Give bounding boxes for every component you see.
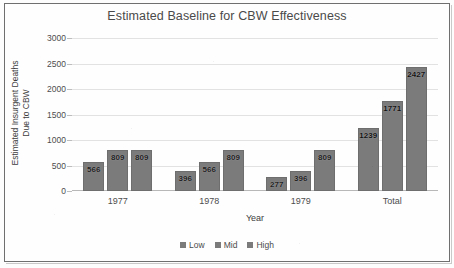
legend-swatch-icon — [215, 242, 221, 248]
y-axis-title: Estimated Insurgent Deaths Due to CBW — [7, 28, 33, 198]
bar-group: 396566809 — [164, 38, 256, 191]
legend-item-label: Low — [189, 240, 205, 250]
plot-area: 300025002000150010005000 566809809396566… — [72, 38, 438, 191]
bar-data-label: 396 — [179, 174, 192, 183]
bar-group-bars: 277396809 — [255, 38, 347, 191]
bar[interactable]: 2427 — [406, 67, 427, 191]
bar-data-label: 809 — [318, 153, 331, 162]
legend-item[interactable]: Mid — [215, 240, 238, 250]
x-axis-tick-label: 1978 — [164, 196, 256, 206]
bar-data-label: 277 — [270, 180, 283, 189]
x-axis-tick-label: Total — [347, 196, 439, 206]
x-axis-tick-label: 1979 — [255, 196, 347, 206]
bar[interactable]: 277 — [266, 177, 287, 191]
bar[interactable]: 566 — [83, 162, 104, 191]
legend-item-label: Mid — [224, 240, 238, 250]
y-axis-tick-label: 3000 — [36, 33, 66, 43]
bar-group-bars: 123917712427 — [347, 38, 439, 191]
y-axis-tick-label: 2000 — [36, 84, 66, 94]
bar-data-label: 2427 — [407, 70, 425, 79]
chart-title: Estimated Baseline for CBW Effectiveness — [0, 9, 454, 23]
y-axis-title-line1: Estimated Insurgent Deaths — [10, 61, 20, 166]
y-axis-tick-label: 0 — [36, 186, 66, 196]
x-axis-tick-label: 1977 — [72, 196, 164, 206]
gridline — [72, 191, 438, 192]
bar[interactable]: 396 — [290, 171, 311, 191]
y-axis-title-line2: Due to CBW — [20, 61, 31, 166]
y-axis-tick-mark — [67, 191, 72, 192]
bar-data-label: 566 — [203, 165, 216, 174]
bar-group: 566809809 — [72, 38, 164, 191]
bar[interactable]: 1771 — [382, 101, 403, 191]
y-axis-tick-label: 1500 — [36, 110, 66, 120]
bar-data-label: 809 — [227, 153, 240, 162]
legend-item-label: High — [256, 240, 273, 250]
y-axis-tick-label: 500 — [36, 161, 66, 171]
bar[interactable]: 566 — [199, 162, 220, 191]
bar-data-label: 1771 — [383, 104, 401, 113]
bar[interactable]: 809 — [314, 150, 335, 191]
legend-item[interactable]: High — [247, 240, 273, 250]
bar[interactable]: 809 — [131, 150, 152, 191]
bar-group: 277396809 — [255, 38, 347, 191]
chart-figure: Estimated Baseline for CBW Effectiveness… — [0, 0, 454, 268]
bar-groups: 566809809396566809277396809123917712427 — [72, 38, 438, 191]
legend-item[interactable]: Low — [180, 240, 205, 250]
legend-swatch-icon — [180, 242, 186, 248]
bar-group-bars: 566809809 — [72, 38, 164, 191]
bar-data-label: 1239 — [359, 131, 377, 140]
bar-data-label: 809 — [111, 153, 124, 162]
x-axis-tick-labels: 197719781979Total — [72, 196, 438, 206]
bar[interactable]: 1239 — [358, 128, 379, 191]
bar[interactable]: 396 — [175, 171, 196, 191]
bar-data-label: 396 — [294, 174, 307, 183]
chart-legend: LowMidHigh — [0, 240, 454, 250]
y-axis-tick-label: 1000 — [36, 135, 66, 145]
y-axis-tick-label: 2500 — [36, 59, 66, 69]
x-axis-title: Year — [72, 213, 438, 223]
bar-data-label: 809 — [135, 153, 148, 162]
bar-data-label: 566 — [87, 165, 100, 174]
legend-swatch-icon — [247, 242, 253, 248]
bar-group-bars: 396566809 — [164, 38, 256, 191]
bar[interactable]: 809 — [223, 150, 244, 191]
bar[interactable]: 809 — [107, 150, 128, 191]
bar-group: 123917712427 — [347, 38, 439, 191]
